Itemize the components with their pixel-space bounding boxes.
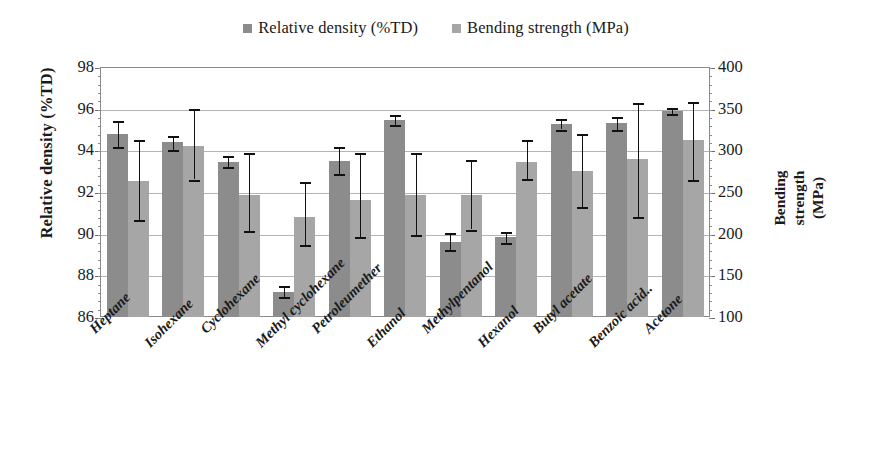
square-marker-icon: [243, 24, 252, 33]
error-bar-cap: [189, 109, 200, 111]
y-axis-left-tick-label: 94: [60, 140, 94, 160]
error-bar: [638, 103, 639, 217]
error-bar-cap: [300, 245, 311, 247]
y-axis-left-tick-label: 90: [60, 224, 94, 244]
error-bar: [139, 140, 140, 221]
y-axis-left-tick-label: 96: [60, 99, 94, 119]
error-bar-cap: [134, 220, 145, 222]
error-bar-cap: [612, 130, 623, 132]
error-bar-cap: [522, 140, 533, 142]
x-axis-category-labels: HeptaneIsohexaneCyclohexaneMethyl cycloh…: [0, 317, 872, 457]
error-bar-cap: [445, 233, 456, 235]
error-bar-cap: [223, 156, 234, 158]
y-axis-left-tick-label: 88: [60, 265, 94, 285]
error-bar-cap: [355, 153, 366, 155]
error-bar-cap: [168, 136, 179, 138]
y-axis-right-title: Bendingstrength(MPa): [770, 118, 796, 278]
error-bar-cap: [445, 250, 456, 252]
y-axis-left-tick-label: 98: [60, 57, 94, 77]
error-bar-cap: [667, 114, 678, 116]
error-bar-cap: [134, 140, 145, 142]
error-bar-cap: [334, 147, 345, 149]
error-bar-cap: [577, 207, 588, 209]
square-marker-icon: [452, 24, 461, 33]
error-bar-cap: [411, 153, 422, 155]
y-axis-right-tick-label: 250: [718, 182, 762, 202]
error-bar-cap: [556, 130, 567, 132]
y-axis-right-tick-label: 150: [718, 265, 762, 285]
y-axis-right-tick-label: 300: [718, 140, 762, 160]
error-bar-cap: [667, 108, 678, 110]
error-bar-cap: [334, 174, 345, 176]
error-bar-cap: [577, 134, 588, 136]
bar-relative-density: [384, 120, 405, 317]
error-bar-cap: [355, 237, 366, 239]
bar-chart-figure: Relative density (%TD) Bending strength …: [0, 0, 872, 466]
error-bar: [582, 134, 583, 207]
chart-legend: Relative density (%TD) Bending strength …: [0, 18, 872, 38]
error-bar: [360, 153, 361, 237]
y-axis-right-title-line: (MPa): [809, 177, 827, 219]
y-axis-left-title: Relative density (%TD): [37, 43, 57, 263]
error-bar: [249, 153, 250, 231]
error-bar-cap: [633, 217, 644, 219]
error-bar-cap: [390, 115, 401, 117]
error-bar-cap: [113, 121, 124, 123]
error-bar: [194, 109, 195, 180]
error-bar: [416, 153, 417, 236]
error-bar-cap: [244, 153, 255, 155]
error-bar: [118, 121, 119, 147]
error-bar-cap: [390, 125, 401, 127]
error-bar-cap: [688, 102, 699, 104]
error-bar-cap: [300, 182, 311, 184]
error-bar-cap: [501, 243, 512, 245]
error-bar-cap: [466, 160, 477, 162]
y-axis-left-tick-label: 92: [60, 182, 94, 202]
error-bar-cap: [556, 119, 567, 121]
error-bar: [450, 233, 451, 251]
y-axis-right-tick-label: 350: [718, 99, 762, 119]
legend-item-relative-density: Relative density (%TD): [243, 18, 418, 38]
error-bar-cap: [612, 117, 623, 119]
legend-item-bending-strength: Bending strength (MPa): [452, 18, 629, 38]
error-bar: [305, 182, 306, 245]
error-bar: [527, 140, 528, 178]
bar-relative-density: [662, 111, 683, 317]
error-bar-cap: [168, 150, 179, 152]
error-bar-cap: [688, 180, 699, 182]
legend-label-relative-density: Relative density (%TD): [258, 18, 418, 38]
error-bar-cap: [279, 286, 290, 288]
error-bar-cap: [633, 103, 644, 105]
bar-relative-density: [606, 123, 627, 317]
y-axis-right-tick-label: 400: [718, 57, 762, 77]
y-axis-right-title-line: strength: [790, 171, 808, 226]
error-bar-cap: [223, 167, 234, 169]
error-bar-cap: [466, 230, 477, 232]
y-axis-right-tick-label: 200: [718, 224, 762, 244]
y-axis-right-title-line: Bending: [771, 170, 789, 225]
error-bar: [173, 136, 174, 151]
error-bar-cap: [501, 232, 512, 234]
error-bar: [339, 147, 340, 174]
bar-bending-strength: [516, 162, 537, 317]
error-bar: [693, 102, 694, 180]
error-bar-cap: [244, 231, 255, 233]
bar-relative-density: [107, 134, 128, 317]
error-bar-cap: [189, 180, 200, 182]
error-bar-cap: [522, 179, 533, 181]
error-bar-cap: [279, 297, 290, 299]
error-bar: [471, 160, 472, 229]
error-bar-cap: [411, 235, 422, 237]
legend-label-bending-strength: Bending strength (MPa): [467, 18, 629, 38]
bar-relative-density: [162, 142, 183, 317]
error-bar-cap: [113, 147, 124, 149]
bars-layer: [100, 67, 710, 317]
